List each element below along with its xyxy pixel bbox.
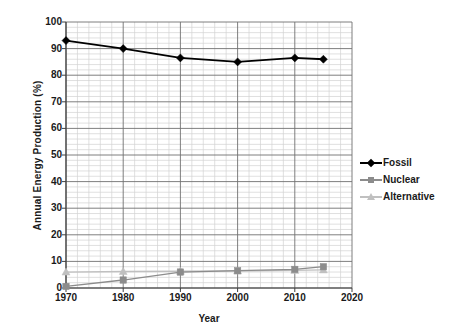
data-point-square-marker (292, 266, 298, 272)
legend-item-alternative[interactable]: Alternative (360, 190, 435, 203)
legend-marker-key (360, 174, 382, 185)
data-point-square-marker (177, 269, 183, 275)
data-point-square-marker (63, 283, 69, 289)
x-tick-label: 2000 (213, 292, 263, 303)
legend-marker-key (360, 191, 382, 202)
x-tick-label: 1990 (155, 292, 205, 303)
diamond-marker-icon (367, 159, 375, 167)
x-axis-title: Year (66, 313, 352, 324)
legend-item-label: Fossil (383, 157, 412, 168)
legend-marker-key (360, 157, 382, 168)
data-point-square-marker (120, 277, 126, 283)
data-point-square-marker (320, 264, 326, 270)
x-tick-label: 2020 (327, 292, 377, 303)
data-point-square-marker (234, 268, 240, 274)
legend-item-label: Nuclear (383, 174, 420, 185)
chart-legend: FossilNuclearAlternative (360, 156, 435, 203)
x-tick-label: 1970 (41, 292, 91, 303)
chart-container: Annual Energy Production (%) 10090807060… (0, 0, 460, 333)
triangle-marker-icon (367, 193, 375, 200)
x-tick-label: 1980 (98, 292, 148, 303)
legend-item-label: Alternative (383, 191, 435, 202)
x-tick-label: 2010 (270, 292, 320, 303)
legend-item-nuclear[interactable]: Nuclear (360, 173, 435, 186)
square-marker-icon (368, 177, 374, 183)
legend-item-fossil[interactable]: Fossil (360, 156, 435, 169)
